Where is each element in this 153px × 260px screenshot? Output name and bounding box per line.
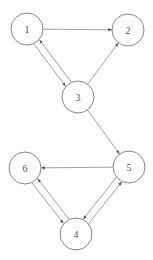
node-2: 2: [112, 14, 144, 46]
node-label: 1: [25, 24, 30, 35]
node-3: 3: [62, 81, 94, 113]
edge-4-to-5: [89, 182, 122, 224]
node-4: 4: [60, 218, 92, 250]
edge-6-to-4: [32, 183, 63, 224]
node-label: 6: [23, 163, 28, 174]
edge-layer: [32, 29, 122, 223]
edge-5-to-6: [41, 167, 113, 168]
node-layer: 123456: [9, 13, 145, 250]
node-label: 4: [74, 229, 79, 240]
node-5: 5: [113, 151, 145, 183]
edge-4-to-6: [38, 179, 69, 220]
edge-1-to-2: [43, 29, 112, 30]
node-6: 6: [9, 152, 41, 184]
node-label: 5: [127, 162, 132, 173]
node-label: 3: [76, 92, 81, 103]
edge-5-to-4: [83, 177, 116, 219]
edge-3-to-2: [88, 43, 119, 84]
edge-3-to-5: [87, 110, 119, 154]
node-label: 2: [126, 25, 131, 36]
edge-3-to-1: [39, 40, 71, 82]
node-1: 1: [11, 13, 43, 45]
edge-1-to-3: [34, 44, 66, 86]
graph-canvas: 123456: [0, 0, 153, 260]
